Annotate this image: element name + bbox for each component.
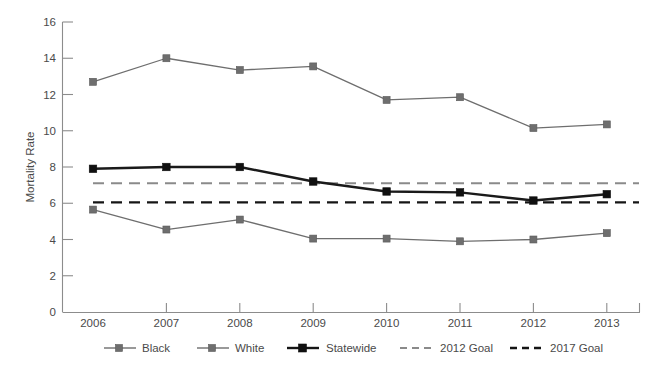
legend-item-2012-goal[interactable]: 2012 Goal	[400, 342, 493, 354]
series-group-black	[90, 55, 611, 132]
data-point-white-2011	[457, 238, 464, 245]
series-group-white	[90, 206, 611, 245]
chart-canvas: Mortality Rate 16 14 12 10 8 6 4 2 0	[0, 0, 658, 373]
data-point-white-2010	[383, 235, 390, 242]
data-point-white-2012	[530, 236, 537, 243]
mortality-rate-line-chart: Mortality Rate 16 14 12 10 8 6 4 2 0	[0, 0, 658, 373]
legend-label-2012-goal: 2012 Goal	[440, 342, 493, 354]
legend-label-statewide: Statewide	[326, 342, 377, 354]
data-point-white-2007	[163, 226, 170, 233]
chart-legend: Black White Statewide 2012 Goal 2017 Goa…	[104, 342, 603, 354]
data-point-white-2009	[310, 235, 317, 242]
data-point-white-2008	[236, 216, 243, 223]
data-point-black-2009	[310, 63, 317, 70]
legend-item-white[interactable]: White	[197, 342, 264, 354]
data-point-statewide-2013	[603, 190, 611, 198]
legend-label-2017-goal: 2017 Goal	[550, 342, 603, 354]
y-axis-ticks: 16 14 12 10 8 6 4 2 0	[43, 16, 73, 318]
y-tick-label-16: 16	[43, 16, 56, 28]
legend-item-black[interactable]: Black	[104, 342, 170, 354]
series-line-black	[93, 58, 607, 128]
legend-swatch-marker-black	[116, 345, 123, 352]
x-tick-label-2013: 2013	[594, 317, 620, 329]
x-tick-label-2006: 2006	[80, 317, 106, 329]
x-tick-label-2009: 2009	[300, 317, 326, 329]
data-point-black-2013	[603, 121, 610, 128]
data-point-statewide-2009	[309, 178, 317, 186]
series-markers-black	[90, 55, 611, 132]
data-point-black-2007	[163, 55, 170, 62]
data-point-black-2006	[90, 78, 97, 85]
data-point-black-2010	[383, 96, 390, 103]
data-point-statewide-2007	[163, 163, 171, 171]
y-tick-label-6: 6	[50, 197, 56, 209]
data-point-statewide-2008	[236, 163, 244, 171]
x-tick-label-2007: 2007	[154, 317, 180, 329]
y-tick-label-12: 12	[43, 89, 56, 101]
y-tick-label-14: 14	[43, 52, 56, 64]
data-point-statewide-2011	[456, 189, 464, 197]
data-point-black-2008	[236, 67, 243, 74]
data-point-statewide-2012	[530, 197, 538, 205]
y-tick-label-8: 8	[50, 161, 56, 173]
x-axis-ticks: 2006 2007 2008 2009 2010 2011 2012 2013	[80, 303, 639, 329]
x-tick-label-2010: 2010	[374, 317, 400, 329]
legend-label-black: Black	[142, 342, 170, 354]
x-tick-label-2012: 2012	[521, 317, 547, 329]
legend-swatch-marker-statewide	[299, 344, 307, 352]
y-axis-title: Mortality Rate	[24, 132, 36, 203]
legend-item-statewide[interactable]: Statewide	[287, 342, 377, 354]
data-point-black-2011	[457, 94, 464, 101]
y-tick-label-10: 10	[43, 125, 56, 137]
legend-item-2017-goal[interactable]: 2017 Goal	[510, 342, 603, 354]
y-tick-label-0: 0	[50, 306, 56, 318]
x-tick-label-2011: 2011	[448, 317, 473, 329]
x-tick-label-2008: 2008	[227, 317, 253, 329]
data-point-statewide-2010	[383, 188, 391, 196]
data-point-white-2006	[90, 206, 97, 213]
y-axis-title-text: Mortality Rate	[24, 132, 36, 203]
y-tick-label-4: 4	[50, 234, 57, 246]
data-point-statewide-2006	[89, 165, 97, 173]
y-tick-label-2: 2	[50, 270, 56, 282]
legend-swatch-marker-white	[209, 345, 216, 352]
data-point-black-2012	[530, 125, 537, 132]
data-point-white-2013	[603, 230, 610, 237]
legend-label-white: White	[235, 342, 264, 354]
